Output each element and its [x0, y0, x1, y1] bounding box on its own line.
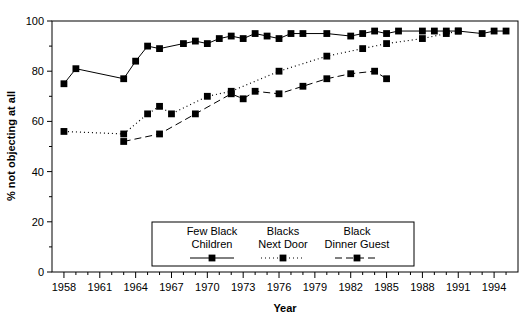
data-point-marker [252, 30, 259, 37]
data-point-marker [228, 33, 235, 40]
data-point-marker [156, 103, 163, 110]
x-axis-title: Year [273, 302, 297, 314]
data-point-marker [216, 35, 223, 42]
x-tick-label: 1991 [446, 281, 470, 293]
x-axis-ticks: 1958196119641967197019731976197919821985… [52, 272, 507, 293]
data-point-marker [383, 30, 390, 37]
data-point-marker [120, 131, 127, 138]
y-tick-label: 60 [32, 115, 44, 127]
data-point-marker [132, 58, 139, 65]
y-tick-label: 0 [38, 266, 44, 278]
data-point-marker [192, 38, 199, 45]
data-point-marker [72, 65, 79, 72]
x-tick-label: 1964 [123, 281, 147, 293]
data-point-marker [276, 68, 283, 75]
x-tick-label: 1979 [303, 281, 327, 293]
x-tick-label: 1958 [52, 281, 76, 293]
legend-label-line2: Next Door [258, 238, 308, 250]
y-tick-label: 100 [26, 15, 44, 27]
data-point-marker [503, 28, 510, 35]
x-tick-label: 1994 [482, 281, 506, 293]
data-point-marker [276, 90, 283, 97]
data-point-marker [359, 45, 366, 52]
data-point-marker [419, 35, 426, 42]
data-point-marker [204, 40, 211, 47]
data-point-marker [323, 30, 330, 37]
x-tick-label: 1970 [195, 281, 219, 293]
data-point-marker [120, 75, 127, 82]
x-tick-label: 1985 [374, 281, 398, 293]
data-point-marker [204, 93, 211, 100]
legend-label-line1: Black [344, 225, 371, 237]
legend-label-line1: Few Black [187, 225, 238, 237]
series-line [64, 31, 506, 84]
x-tick-label: 1961 [88, 281, 112, 293]
data-point-marker [443, 30, 450, 37]
data-point-marker [180, 40, 187, 47]
y-axis-ticks: 020406080100 [26, 15, 52, 278]
legend-label-line2: Dinner Guest [325, 238, 390, 250]
legend-marker-sample [209, 255, 216, 262]
x-tick-label: 1988 [410, 281, 434, 293]
data-point-marker [359, 30, 366, 37]
series-line [124, 71, 387, 141]
series-1 [61, 28, 510, 88]
chart-container: 020406080100 195819611964196719701973197… [0, 0, 526, 321]
data-point-marker [491, 28, 498, 35]
y-axis-title: % not objecting at all [5, 91, 17, 201]
chart-legend: Few BlackChildrenBlacksNext DoorBlackDin… [152, 222, 414, 266]
legend-marker-sample [354, 255, 361, 262]
line-chart: 020406080100 195819611964196719701973197… [0, 0, 526, 321]
data-point-marker [192, 110, 199, 117]
data-point-marker [419, 28, 426, 35]
y-tick-label: 40 [32, 166, 44, 178]
x-tick-label: 1976 [267, 281, 291, 293]
data-point-marker [323, 75, 330, 82]
legend-label-line1: Blacks [267, 225, 300, 237]
data-point-marker [276, 35, 283, 42]
x-tick-label: 1973 [231, 281, 255, 293]
data-point-marker [240, 95, 247, 102]
data-point-marker [144, 43, 151, 50]
data-point-marker [371, 28, 378, 35]
data-point-marker [252, 88, 259, 95]
data-point-marker [228, 90, 235, 97]
data-point-marker [347, 33, 354, 40]
data-point-marker [288, 30, 295, 37]
legend-label-line2: Children [192, 238, 233, 250]
data-point-marker [264, 33, 271, 40]
data-point-marker [240, 35, 247, 42]
legend-marker-sample [280, 255, 287, 262]
series-line [64, 31, 458, 134]
data-point-marker [144, 110, 151, 117]
data-point-marker [395, 28, 402, 35]
data-point-marker [371, 68, 378, 75]
data-point-marker [156, 45, 163, 52]
data-point-marker [156, 131, 163, 138]
data-point-marker [300, 83, 307, 90]
data-point-marker [431, 28, 438, 35]
x-tick-label: 1982 [338, 281, 362, 293]
data-point-marker [300, 30, 307, 37]
data-point-marker [120, 138, 127, 145]
data-point-marker [383, 40, 390, 47]
data-point-marker [347, 70, 354, 77]
data-point-marker [168, 110, 175, 117]
series-2 [61, 28, 462, 138]
series-layer [61, 28, 510, 145]
y-tick-label: 20 [32, 216, 44, 228]
data-point-marker [61, 128, 68, 135]
x-tick-label: 1967 [159, 281, 183, 293]
data-point-marker [455, 28, 462, 35]
data-point-marker [479, 30, 486, 37]
data-point-marker [383, 75, 390, 82]
y-tick-label: 80 [32, 65, 44, 77]
data-point-marker [61, 80, 68, 87]
data-point-marker [323, 53, 330, 60]
